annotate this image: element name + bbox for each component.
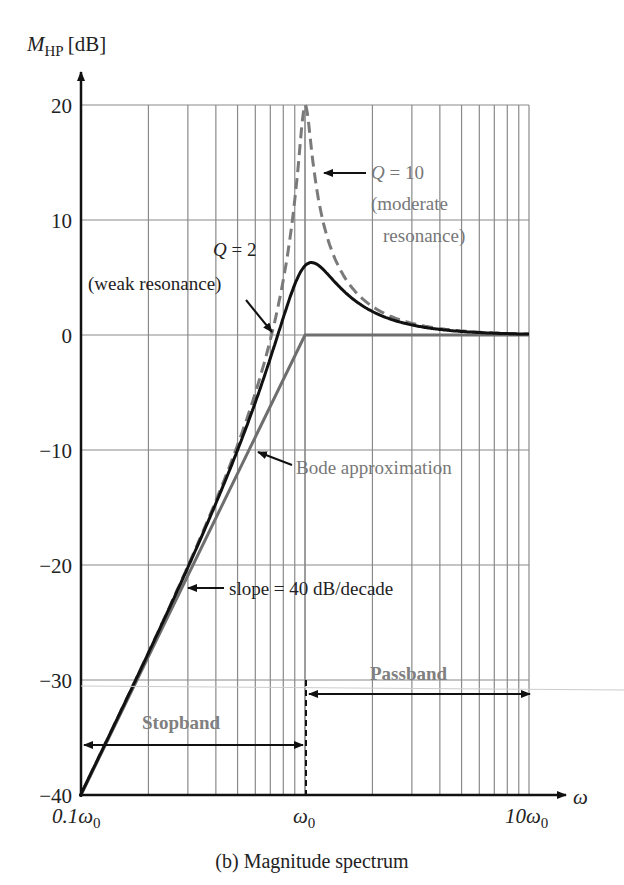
q10-sublabel-1: (moderate — [371, 193, 448, 215]
chart-caption: (b) Magnitude spectrum — [215, 850, 409, 873]
svg-text:10: 10 — [51, 209, 72, 233]
svg-text:0: 0 — [62, 324, 73, 348]
y-tick-labels: 20 10 0 −10 −20 −30 −40 — [39, 94, 72, 808]
q2-arrow — [246, 300, 272, 332]
x-axis-title: ω — [573, 785, 588, 809]
magnitude-spectrum-chart: MHP[dB] 20 10 0 −10 −20 −30 −40 0.1ω0 ω0… — [0, 0, 624, 885]
svg-text:10ω0: 10ω0 — [505, 804, 548, 831]
svg-text:0.1ω0: 0.1ω0 — [52, 804, 101, 831]
y-axis-title: MHP[dB] — [26, 32, 106, 59]
svg-text:−30: −30 — [39, 669, 72, 693]
svg-text:−20: −20 — [39, 554, 72, 578]
scan-artifact-line — [81, 686, 624, 690]
q10-sublabel-2: resonance) — [383, 225, 465, 247]
slope-label: slope = 40 dB/decade — [229, 578, 393, 599]
q2-label: Q = 2 — [213, 239, 256, 260]
svg-text:−10: −10 — [39, 439, 72, 463]
passband-label: Passband — [370, 663, 448, 684]
bode-label: Bode approximation — [296, 457, 452, 478]
stopband-label: Stopband — [142, 712, 221, 733]
x-tick-labels: 0.1ω0 ω0 10ω0 — [52, 804, 548, 831]
bode-arrow — [258, 452, 292, 465]
q2-sublabel: (weak resonance) — [88, 273, 221, 295]
svg-text:ω0: ω0 — [293, 804, 315, 831]
svg-text:20: 20 — [51, 94, 72, 118]
q10-label: Q = 10 — [371, 162, 424, 183]
